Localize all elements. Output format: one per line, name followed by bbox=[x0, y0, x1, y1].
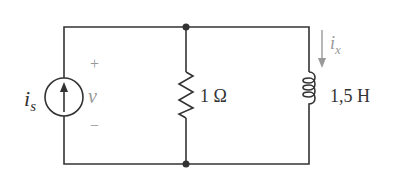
voltage-minus: − bbox=[90, 118, 99, 134]
node-bottom bbox=[183, 161, 190, 168]
voltage-plus: + bbox=[90, 56, 99, 72]
node-top bbox=[183, 24, 190, 31]
resistor-icon bbox=[179, 72, 193, 118]
current-label: ix bbox=[330, 34, 341, 56]
resistor-label: 1 Ω bbox=[200, 87, 227, 105]
inductor-label: 1,5 H bbox=[330, 87, 370, 105]
source-label: is bbox=[24, 88, 36, 114]
inductor-icon bbox=[303, 72, 315, 118]
voltage-label: v bbox=[88, 86, 97, 106]
